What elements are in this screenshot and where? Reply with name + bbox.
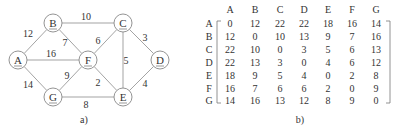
column-header-C: C xyxy=(277,4,284,15)
matrix-cell: 10 xyxy=(250,44,260,55)
matrix-cell: 6 xyxy=(302,83,307,94)
matrix-cell: 18 xyxy=(323,18,333,29)
node-A: A xyxy=(9,51,27,69)
node-E: E xyxy=(114,88,132,106)
node-label: E xyxy=(120,91,127,103)
matrix-cell: 5 xyxy=(326,44,331,55)
matrix-cell: 16 xyxy=(347,18,357,29)
edge-F-G xyxy=(59,67,82,91)
edge-E-D xyxy=(129,66,153,90)
matrix-cell: 9 xyxy=(253,70,258,81)
node-C: C xyxy=(114,14,132,32)
matrix-cell: 9 xyxy=(374,83,379,94)
matrix-caption: b) xyxy=(296,114,304,126)
matrix-cell: 3 xyxy=(302,44,307,55)
node-D: D xyxy=(151,51,169,69)
matrix-row-headers: ABCDEFG xyxy=(205,18,213,106)
row-header-A: A xyxy=(205,18,213,29)
matrix-cell: 0 xyxy=(302,57,307,68)
row-header-E: E xyxy=(206,70,212,81)
matrix-cell: 4 xyxy=(326,57,331,68)
matrix-cell: 22 xyxy=(275,18,285,29)
column-header-B: B xyxy=(252,4,259,15)
matrix-cell: 12 xyxy=(299,95,309,106)
node-label: A xyxy=(14,54,22,66)
matrix-cell: 13 xyxy=(299,31,309,42)
node-label: G xyxy=(49,91,57,103)
matrix-cell: 3 xyxy=(278,57,283,68)
node-label: F xyxy=(85,54,91,66)
matrix-cell: 8 xyxy=(374,70,379,81)
matrix-cell: 13 xyxy=(250,57,260,68)
matrix-cell: 22 xyxy=(225,57,235,68)
right-bracket xyxy=(386,21,390,103)
row-header-G: G xyxy=(205,95,212,106)
edge-weight-B-C: 10 xyxy=(81,11,91,22)
matrix-cell: 18 xyxy=(225,70,235,81)
node-label: C xyxy=(119,17,126,29)
row-header-F: F xyxy=(206,83,212,94)
matrix-cell: 7 xyxy=(253,83,258,94)
column-header-E: E xyxy=(325,4,331,15)
matrix-cell: 12 xyxy=(371,57,381,68)
edge-weight-A-F: 16 xyxy=(46,48,56,59)
matrix-cell: 0 xyxy=(374,95,379,106)
matrix-cell: 0 xyxy=(228,18,233,29)
node-label: B xyxy=(49,17,56,29)
node-F: F xyxy=(79,51,97,69)
edge-weight-C-E: 5 xyxy=(124,55,129,66)
column-header-A: A xyxy=(226,4,234,15)
edge-weight-B-F: 7 xyxy=(63,37,68,48)
matrix-cell: 0 xyxy=(278,44,283,55)
column-header-G: G xyxy=(372,4,379,15)
edge-weight-A-B: 12 xyxy=(23,28,33,39)
matrix-cell: 8 xyxy=(326,95,331,106)
matrix-cell: 2 xyxy=(326,83,331,94)
matrix-cell: 6 xyxy=(350,44,355,55)
column-header-F: F xyxy=(349,4,355,15)
matrix-cell: 13 xyxy=(275,95,285,106)
node-G: G xyxy=(44,88,62,106)
matrix-cell: 10 xyxy=(275,31,285,42)
edge-weight-F-G: 9 xyxy=(65,70,70,81)
matrix-cell: 6 xyxy=(350,57,355,68)
matrix-cell: 22 xyxy=(299,18,309,29)
matrix-cell: 9 xyxy=(326,31,331,42)
matrix-cell: 0 xyxy=(253,31,258,42)
row-header-B: B xyxy=(206,31,213,42)
row-header-D: D xyxy=(205,57,212,68)
matrix-cell: 7 xyxy=(350,31,355,42)
matrix-cell: 0 xyxy=(326,70,331,81)
matrix-cell: 22 xyxy=(225,44,235,55)
edge-weight-G-E: 8 xyxy=(84,99,89,110)
matrix-cell: 12 xyxy=(225,31,235,42)
node-B: B xyxy=(44,14,62,32)
weighted-graph-diagram: 1216141076359284 ABCDEFG a) xyxy=(0,0,200,132)
column-header-D: D xyxy=(300,4,307,15)
matrix-cell: 13 xyxy=(371,44,381,55)
node-label: D xyxy=(156,54,164,66)
matrix-column-headers: ABCDEFG xyxy=(226,4,379,15)
distance-matrix: ABCDEFG ABCDEFG 012222218161412010139716… xyxy=(200,0,394,132)
row-header-C: C xyxy=(206,44,213,55)
matrix-cell: 14 xyxy=(371,18,381,29)
matrix-cell: 12 xyxy=(250,18,260,29)
matrix-cell: 16 xyxy=(225,83,235,94)
matrix-cell: 16 xyxy=(250,95,260,106)
matrix-cell: 5 xyxy=(278,70,283,81)
matrix-cell: 16 xyxy=(371,31,381,42)
edge-C-D xyxy=(129,29,153,53)
edge-weight-C-D: 3 xyxy=(143,32,148,43)
left-bracket xyxy=(217,21,221,103)
edge-weight-E-D: 4 xyxy=(143,78,148,89)
edge-weight-F-E: 2 xyxy=(96,77,101,88)
matrix-cell: 14 xyxy=(225,95,235,106)
matrix-cell: 4 xyxy=(302,70,307,81)
matrix-cell: 0 xyxy=(350,83,355,94)
edge-weight-C-F: 6 xyxy=(96,35,101,46)
matrix-cell: 9 xyxy=(350,95,355,106)
graph-caption: a) xyxy=(80,114,88,126)
edge-weight-A-G: 14 xyxy=(23,79,33,90)
matrix-cell: 2 xyxy=(350,70,355,81)
matrix-cell: 6 xyxy=(278,83,283,94)
